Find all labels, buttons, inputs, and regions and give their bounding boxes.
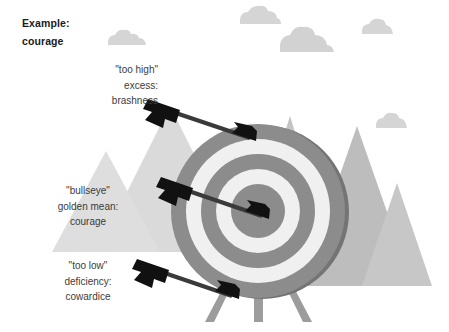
page-title-line-2: courage — [22, 32, 70, 50]
callout-too-high: "too high" excess: brashness — [18, 62, 158, 109]
callout-too-high-line-1: "too high" — [18, 62, 158, 78]
callout-bullseye: "bullseye" golden mean: courage — [8, 183, 168, 230]
callout-too-low-line-1: "too low" — [8, 258, 168, 274]
cloud-center-large — [280, 27, 334, 52]
callout-bullseye-line-3: courage — [8, 214, 168, 230]
callout-too-low-line-2: deficiency: — [8, 274, 168, 290]
cloud-mid-right — [376, 113, 407, 128]
callout-too-low-line-3: cowardice — [8, 289, 168, 305]
callout-bullseye-line-1: "bullseye" — [8, 183, 168, 199]
callout-too-low: "too low" deficiency: cowardice — [8, 258, 168, 305]
callout-too-high-line-2: excess: — [18, 78, 158, 94]
cloud-top-center — [240, 6, 281, 24]
callout-bullseye-line-2: golden mean: — [8, 199, 168, 215]
cloud-left — [108, 30, 146, 45]
callout-too-high-line-3: brashness — [18, 93, 158, 109]
illustration-canvas: Example: courage "too high" excess: bras… — [0, 0, 449, 332]
page-title-line-1: Example: — [22, 14, 70, 32]
cloud-top-right — [362, 19, 393, 34]
page-title: Example: courage — [22, 14, 70, 51]
